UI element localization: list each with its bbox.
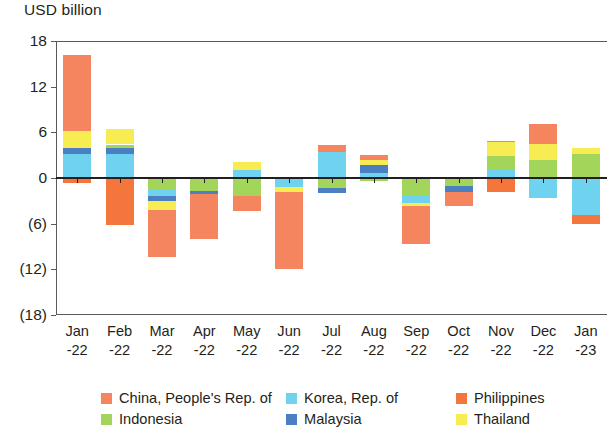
legend-color-swatch xyxy=(286,414,297,425)
y-tick-label: (12) xyxy=(19,260,47,278)
bar-segment xyxy=(445,186,473,193)
y-tick-label: 12 xyxy=(30,78,47,96)
bar-segment xyxy=(148,201,176,210)
x-tick-label: Feb-22 xyxy=(107,322,132,359)
x-tick-label-line: Sep xyxy=(403,322,429,341)
legend-label: Korea, Rep. of xyxy=(304,391,398,406)
bar-segment xyxy=(63,55,91,131)
chart-legend: China, People's Rep. ofIndonesiaKorea, R… xyxy=(101,391,571,431)
x-tick-mark xyxy=(586,178,587,183)
x-tick-label-line: Jan xyxy=(574,322,598,341)
bar-segment xyxy=(190,194,218,239)
x-tick-label: Dec-22 xyxy=(530,322,556,359)
x-tick-label-line: -22 xyxy=(277,341,301,360)
bar-segment xyxy=(529,160,557,178)
bar-segment xyxy=(572,215,600,225)
x-tick-label-line: -22 xyxy=(233,341,261,360)
legend-color-swatch xyxy=(286,393,297,404)
x-tick-label-line: -22 xyxy=(488,341,514,360)
x-tick-label: May-22 xyxy=(233,322,261,359)
bar-segment xyxy=(487,141,515,143)
bar-segment xyxy=(402,206,430,244)
bar-segment xyxy=(445,192,473,206)
plot-area xyxy=(56,41,607,315)
bar-segment xyxy=(63,154,91,178)
bar-segment xyxy=(63,131,91,149)
x-tick-label-line: Apr xyxy=(193,322,216,341)
x-tick-mark xyxy=(374,178,375,183)
bar-segment xyxy=(529,144,557,160)
legend-label: Philippines xyxy=(474,391,545,406)
y-tick-mark xyxy=(51,315,56,316)
x-tick-label-line: -22 xyxy=(193,341,216,360)
bar-segment xyxy=(318,145,346,153)
bar-segment xyxy=(63,148,91,153)
legend-item[interactable]: Philippines xyxy=(456,391,545,406)
bar-segment xyxy=(572,148,600,155)
y-tick-mark xyxy=(51,269,56,270)
x-tick-mark xyxy=(204,178,205,183)
x-tick-label: Jan-22 xyxy=(65,322,89,359)
x-tick-label-line: Oct xyxy=(447,322,470,341)
x-tick-label-line: Jan xyxy=(65,322,89,341)
legend-color-swatch xyxy=(101,414,112,425)
bar-segment xyxy=(318,188,346,193)
x-tick-label-line: Jun xyxy=(277,322,301,341)
x-tick-mark xyxy=(501,178,502,183)
legend-label: China, People's Rep. of xyxy=(119,391,272,406)
x-tick-label: Mar-22 xyxy=(149,322,174,359)
x-tick-label-line: -22 xyxy=(530,341,556,360)
y-tick-label: (18) xyxy=(19,306,47,324)
legend-color-swatch xyxy=(101,393,112,404)
legend-color-swatch xyxy=(456,414,467,425)
bar-segment xyxy=(233,196,261,212)
x-tick-mark xyxy=(289,178,290,183)
y-tick-label: (6) xyxy=(28,215,47,233)
x-tick-mark xyxy=(459,178,460,183)
bar-segment xyxy=(572,154,600,178)
bar-segment xyxy=(360,165,388,173)
x-tick-label: Aug-22 xyxy=(361,322,387,359)
bar-segment xyxy=(106,154,134,178)
x-tick-label: Jun-22 xyxy=(277,322,301,359)
bar-segment xyxy=(487,142,515,156)
bar-segment xyxy=(572,178,600,215)
bar-segment xyxy=(106,129,134,145)
x-tick-label-line: -22 xyxy=(65,341,89,360)
x-tick-mark xyxy=(162,178,163,183)
legend-item[interactable]: Indonesia xyxy=(101,412,182,427)
x-tick-label-line: -22 xyxy=(361,341,387,360)
y-tick-label: 6 xyxy=(38,123,47,141)
x-tick-label-line: Nov xyxy=(488,322,514,341)
y-tick-label: 0 xyxy=(38,169,47,187)
x-tick-label-line: Feb xyxy=(107,322,132,341)
bar-segment xyxy=(487,156,515,170)
bar-segment xyxy=(529,124,557,144)
bar-segment xyxy=(148,210,176,257)
legend-item[interactable]: China, People's Rep. of xyxy=(101,391,272,406)
legend-item[interactable]: Korea, Rep. of xyxy=(286,391,398,406)
x-tick-label-line: -22 xyxy=(149,341,174,360)
x-tick-mark xyxy=(543,178,544,183)
y-tick-mark xyxy=(51,132,56,133)
x-tick-mark xyxy=(416,178,417,183)
x-tick-label-line: -22 xyxy=(321,341,342,360)
x-tick-label-line: -22 xyxy=(107,341,132,360)
bar-segment xyxy=(106,178,134,225)
x-tick-label-line: Aug xyxy=(361,322,387,341)
bar-segment xyxy=(106,148,134,154)
x-tick-label-line: -23 xyxy=(574,341,598,360)
legend-color-swatch xyxy=(456,393,467,404)
bar-segment xyxy=(402,195,430,203)
x-tick-label: Oct-22 xyxy=(447,322,470,359)
y-tick-mark xyxy=(51,87,56,88)
y-axis-unit-title: USD billion xyxy=(24,1,102,19)
x-tick-label-line: -22 xyxy=(403,341,429,360)
x-tick-label-line: Dec xyxy=(530,322,556,341)
y-tick-mark xyxy=(51,224,56,225)
bar-segment xyxy=(360,155,388,160)
bar-segment xyxy=(106,145,134,148)
legend-item[interactable]: Thailand xyxy=(456,412,530,427)
legend-item[interactable]: Malaysia xyxy=(286,412,362,427)
bar-segment xyxy=(318,152,346,178)
